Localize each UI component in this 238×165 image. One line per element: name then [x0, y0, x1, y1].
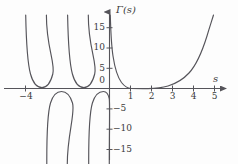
x-tick-label-minus4: −4	[15, 92, 37, 101]
curve-branch-minus1-0	[89, 92, 110, 165]
y-tick-label-15: 15	[83, 23, 105, 32]
x-tick-label-2: 2	[143, 92, 160, 101]
gamma-function-plot-figure: 15 10 5 0 −5 −10 −15 −4 1 2 3 4 5 Γ(s) s	[0, 0, 238, 164]
x-tick-label-5: 5	[206, 92, 223, 101]
y-tick-label-0: 0	[83, 76, 105, 85]
y-tick-label-minus15: −15	[113, 145, 139, 154]
curve-branch-minus3-minus2	[47, 92, 73, 165]
x-axis-label: s	[213, 74, 218, 84]
y-tick-label-5: 5	[83, 64, 105, 73]
x-tick-label-3: 3	[164, 92, 181, 101]
y-axis-label: Γ(s)	[116, 5, 136, 15]
y-tick-label-10: 10	[83, 43, 105, 52]
y-tick-label-minus5: −5	[113, 104, 139, 113]
x-tick-label-4: 4	[185, 92, 202, 101]
curve-branch-positive	[110, 15, 213, 89]
x-tick-label-1: 1	[122, 92, 139, 101]
plot-canvas	[0, 0, 238, 164]
gamma-curves	[26, 15, 214, 164]
curve-branch-minus4-minus3	[26, 15, 54, 88]
y-tick-label-minus10: −10	[113, 124, 139, 133]
